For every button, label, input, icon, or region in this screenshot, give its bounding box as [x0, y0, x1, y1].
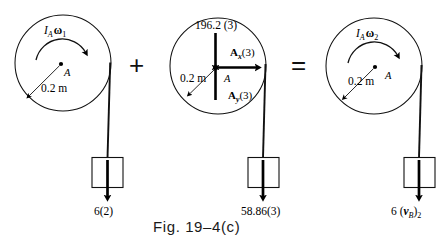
- final-angular-momentum-label: IA ω2: [356, 28, 378, 42]
- disk-center-point: [373, 65, 377, 69]
- impulse-momentum-diagram: [0, 0, 448, 241]
- cord: [108, 63, 111, 159]
- radius-label: 0.2 m: [41, 83, 67, 95]
- center-label-A: A: [224, 74, 230, 85]
- cord: [419, 65, 422, 158]
- plus-operator: +: [129, 52, 144, 78]
- reaction-x-impulse-label: Ax(3): [230, 47, 255, 61]
- panel-impulses: [170, 18, 279, 198]
- panel-initial-momentum: [15, 15, 123, 198]
- angular-velocity-arc: [348, 42, 398, 63]
- initial-linear-momentum-label: 6(2): [94, 206, 113, 218]
- initial-angular-momentum-label: IA ω1: [44, 25, 66, 39]
- cord: [263, 64, 266, 158]
- panel-final-momentum: [326, 18, 435, 198]
- equals-operator: =: [291, 52, 306, 78]
- linear-impulse-label: 58.86(3): [241, 206, 280, 218]
- disk-center-point: [59, 62, 63, 66]
- weight-impulse-label: 196.2 (3): [195, 20, 237, 32]
- reaction-y-impulse-label: Ay(3): [228, 90, 252, 104]
- final-linear-momentum-label: 6 (vB)2: [391, 206, 421, 220]
- center-label-A: A: [64, 68, 70, 79]
- figure-caption: Fig. 19–4(c): [153, 219, 240, 234]
- angular-velocity-arc: [36, 39, 86, 60]
- center-label-A: A: [385, 71, 391, 82]
- radius-label: 0.2 m: [180, 73, 206, 85]
- radius-label: 0.2 m: [348, 76, 374, 88]
